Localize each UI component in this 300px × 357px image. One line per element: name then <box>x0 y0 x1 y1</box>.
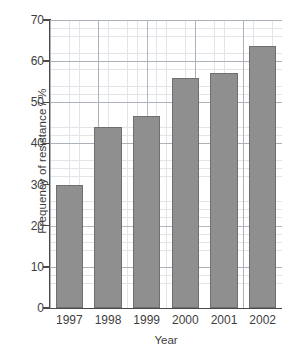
y-tick-mark <box>43 225 50 226</box>
x-tick-label: 1997 <box>56 313 83 327</box>
bars-layer <box>50 20 282 308</box>
y-tick-label: 10 <box>4 260 44 274</box>
y-tick-label: 0 <box>4 301 44 315</box>
y-tick-mark <box>43 143 50 144</box>
bar-2000 <box>172 78 199 308</box>
y-tick-label: 20 <box>4 219 44 233</box>
bar-1997 <box>56 185 83 308</box>
y-tick-mark <box>43 266 50 267</box>
y-tick-label: 60 <box>4 54 44 68</box>
bar-1999 <box>133 116 160 308</box>
bar-1998 <box>94 127 121 308</box>
y-axis-tick-labels: 010203040506070 <box>0 0 44 357</box>
bar-2002 <box>249 46 276 308</box>
y-tick-mark <box>43 60 50 61</box>
x-tick-label: 1998 <box>95 313 122 327</box>
x-tick-label: 2002 <box>249 313 276 327</box>
y-tick-label: 70 <box>4 13 44 27</box>
bar-chart-figure: Frequency of resistance / % 010203040506… <box>0 0 300 357</box>
y-tick-mark <box>43 19 50 20</box>
y-tick-label: 50 <box>4 95 44 109</box>
x-tick-label: 1999 <box>133 313 160 327</box>
x-tick-label: 2001 <box>211 313 238 327</box>
bar-2001 <box>210 73 237 308</box>
x-axis-tick-labels: 199719981999200020012002 <box>50 313 282 331</box>
y-tick-label: 40 <box>4 136 44 150</box>
y-tick-label: 30 <box>4 178 44 192</box>
x-axis-title: Year <box>50 334 282 346</box>
y-tick-mark <box>43 102 50 103</box>
x-tick-label: 2000 <box>172 313 199 327</box>
y-tick-mark <box>43 184 50 185</box>
y-tick-mark <box>43 307 50 308</box>
